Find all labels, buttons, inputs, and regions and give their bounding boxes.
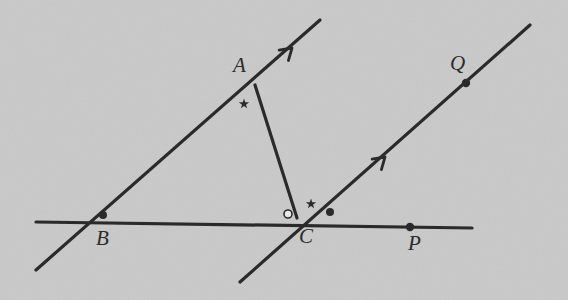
point-label-a: A — [233, 55, 246, 76]
figure-canvas — [0, 0, 568, 300]
dot-at-Q — [462, 79, 470, 87]
dot-at-P — [406, 223, 414, 231]
point-label-p: P — [408, 233, 421, 254]
open-circle-angle-at-C — [284, 210, 292, 218]
point-label-b: B — [96, 228, 109, 249]
point-label-c: C — [299, 226, 313, 247]
geometry-figure: ABCPQ — [0, 0, 568, 300]
dot-angle-at-B — [99, 211, 107, 219]
paper-texture — [0, 0, 568, 300]
point-label-q: Q — [450, 53, 465, 74]
dot-angle-at-C — [326, 208, 334, 216]
